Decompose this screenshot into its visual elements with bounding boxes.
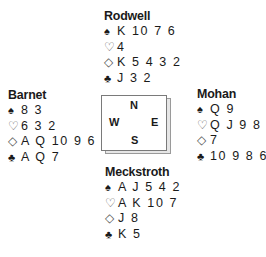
- spade-icon: ♠: [104, 24, 117, 40]
- heart-icon: ♡: [105, 196, 118, 212]
- south-clubs: ♣K 5: [105, 227, 181, 243]
- compass-south: S: [131, 134, 138, 146]
- south-diamonds: ◇J 8: [105, 211, 181, 227]
- west-spades: ♠8 3: [8, 103, 96, 119]
- compass-east: E: [151, 116, 158, 128]
- south-player-name: Meckstroth: [105, 164, 175, 180]
- compass-west: W: [109, 116, 119, 128]
- east-spades: ♠Q 9: [197, 102, 266, 118]
- west-clubs: ♣A Q 7: [8, 150, 96, 166]
- club-icon: ♣: [197, 149, 210, 165]
- east-hand: Mohan ♠Q 9 ♡Q J 9 8 5 ◇7 ♣10 9 8 6 4: [197, 86, 266, 164]
- west-diamonds: ◇A Q 10 9 6: [8, 134, 96, 150]
- heart-icon: ♡: [8, 119, 21, 135]
- north-spades: ♠K 10 7 6: [104, 24, 181, 40]
- spade-icon: ♠: [8, 103, 21, 119]
- north-hand: Rodwell ♠K 10 7 6 ♡4 ◇K 5 4 3 2 ♣J 3 2: [104, 8, 181, 86]
- diamond-icon: ◇: [197, 133, 210, 149]
- compass-table: N W E S: [101, 95, 165, 149]
- heart-icon: ♡: [197, 118, 210, 134]
- east-diamonds: ◇7: [197, 133, 266, 149]
- north-hearts: ♡4: [104, 40, 181, 56]
- compass-box: N W E S: [101, 95, 167, 151]
- east-clubs: ♣10 9 8 6 4: [197, 149, 266, 165]
- heart-icon: ♡: [104, 40, 117, 56]
- club-icon: ♣: [104, 71, 117, 87]
- compass-north: N: [130, 99, 138, 111]
- south-spades: ♠A J 5 4 2: [105, 180, 181, 196]
- south-hearts: ♡A K 10 7: [105, 196, 181, 212]
- north-diamonds: ◇K 5 4 3 2: [104, 55, 181, 71]
- west-player-name: Barnet: [8, 87, 89, 103]
- spade-icon: ♠: [105, 180, 118, 196]
- diamond-icon: ◇: [105, 211, 118, 227]
- diamond-icon: ◇: [104, 55, 117, 71]
- east-hearts: ♡Q J 9 8 5: [197, 118, 266, 134]
- diamond-icon: ◇: [8, 134, 21, 150]
- west-hand: Barnet ♠8 3 ♡6 3 2 ◇A Q 10 9 6 ♣A Q 7: [8, 87, 96, 165]
- club-icon: ♣: [105, 227, 118, 243]
- north-clubs: ♣J 3 2: [104, 71, 181, 87]
- south-hand: Meckstroth ♠A J 5 4 2 ♡A K 10 7 ◇J 8 ♣K …: [105, 164, 181, 242]
- club-icon: ♣: [8, 150, 21, 166]
- north-player-name: Rodwell: [104, 8, 175, 24]
- east-player-name: Mohan: [197, 86, 266, 102]
- west-hearts: ♡6 3 2: [8, 119, 96, 135]
- spade-icon: ♠: [197, 102, 210, 118]
